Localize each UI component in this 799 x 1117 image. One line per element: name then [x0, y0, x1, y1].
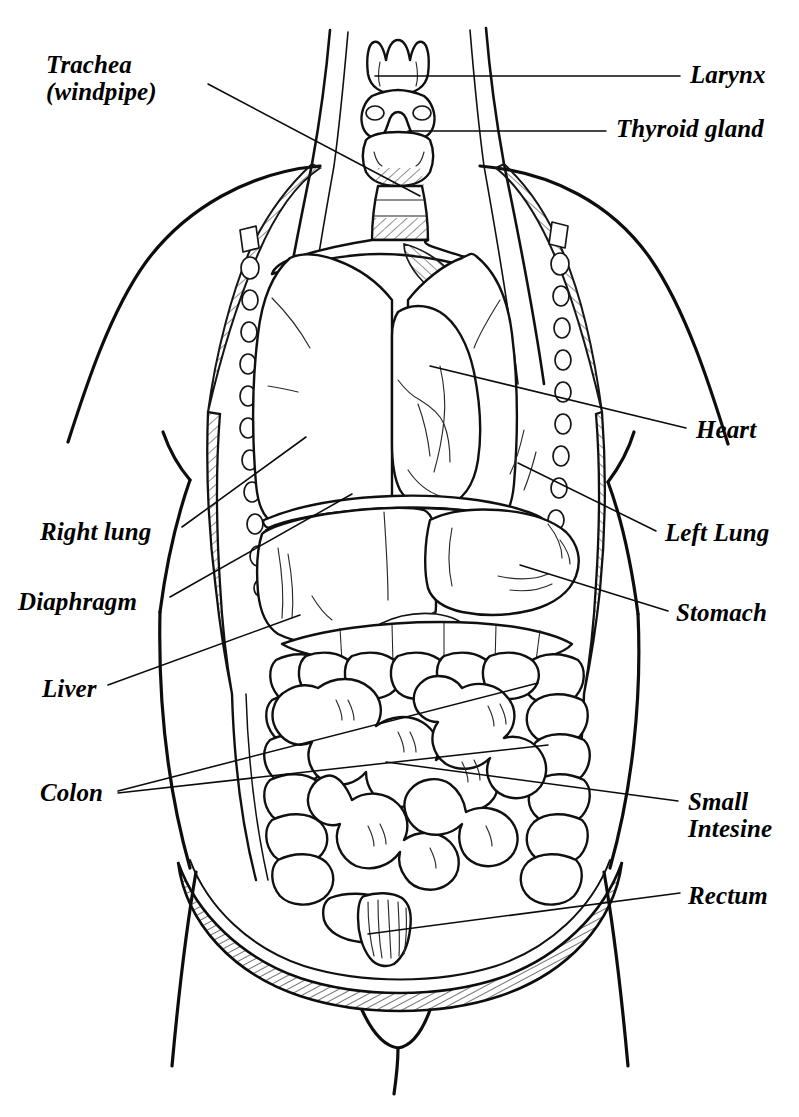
anatomy-diagram: Trachea (windpipe) Right lung Diaphragm …	[0, 0, 799, 1117]
right-forearm-outline	[608, 432, 634, 482]
torso-illustration	[0, 0, 799, 1117]
leader-rectum	[368, 893, 680, 934]
label-thyroid-gland: Thyroid gland	[616, 116, 764, 143]
left-ribcage-wall	[207, 412, 232, 694]
label-diaphragm: Diaphragm	[18, 589, 137, 616]
label-colon: Colon	[40, 780, 103, 807]
left-forearm-outline	[163, 432, 190, 480]
right-ribcage-wall	[584, 412, 605, 694]
groin-y-mark	[362, 1010, 430, 1048]
thyroid-lobe-left-foramen	[366, 106, 384, 120]
label-heart: Heart	[696, 417, 756, 444]
left-hip-outline	[160, 480, 190, 612]
label-small-intestine: Small Intesine	[688, 789, 772, 842]
label-liver: Liver	[42, 676, 97, 703]
right-flank-outline	[610, 614, 639, 868]
label-right-lung: Right lung	[40, 519, 151, 546]
larynx	[367, 40, 429, 95]
right-lung	[253, 254, 392, 524]
stomach	[425, 509, 579, 614]
groin-stem-mark	[394, 1048, 398, 1094]
trachea-hatch-lower	[372, 218, 427, 239]
trachea-hatch-upper	[374, 168, 424, 186]
label-left-lung: Left Lung	[665, 520, 769, 547]
label-larynx: Larynx	[690, 62, 766, 89]
thyroid-lobe-right-foramen	[413, 106, 431, 120]
label-trachea: Trachea (windpipe)	[46, 52, 157, 105]
label-rectum: Rectum	[688, 883, 768, 910]
left-flank-outline	[160, 612, 190, 868]
label-stomach: Stomach	[676, 600, 767, 627]
